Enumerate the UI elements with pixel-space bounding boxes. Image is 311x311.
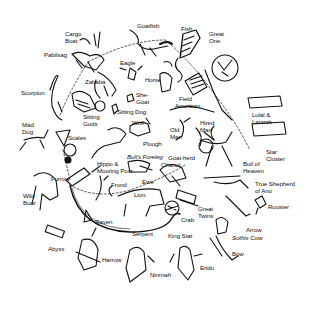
label-bulls-foreleg: Bull's Foreleg [127, 153, 163, 160]
label-anunitum: Anunitum [175, 102, 200, 109]
label-lulal-latarak: Lulal & Latarak [252, 111, 272, 125]
true-shepherd-figure [204, 176, 248, 188]
star-cluster-figure [199, 139, 213, 153]
eridu-figure [170, 246, 202, 280]
label-sitting-gods: Sitting Gods [83, 113, 100, 127]
goatfish-figure [130, 30, 172, 56]
label-hired-man: Hired Man [200, 119, 214, 133]
sitting-gods-figure [72, 91, 105, 112]
label-abyss: Abyss [48, 245, 64, 252]
label-hippo-mooring-post: Hippo & Mooring Post [97, 160, 132, 174]
label-goat-herd: Goat-herd [168, 154, 195, 161]
ewe-figure [140, 166, 152, 170]
label-harrow: Harrow [102, 256, 121, 263]
label-rooster: Rooster [268, 203, 289, 210]
label-ninmah: Ninmah [150, 271, 171, 278]
label-mad-dog: Mad Dog [22, 121, 34, 135]
label-eagle: Eagle [120, 59, 135, 66]
label-king-star: King Star [168, 232, 193, 239]
label-sitting-dog: Sitting Dog [117, 108, 146, 115]
sothis-cow-figure [216, 217, 228, 234]
label-ewe: Ewe [142, 178, 154, 185]
label-wolf: Wolf [132, 119, 144, 126]
label-she-goat: She- Goat [136, 91, 149, 105]
frond-figure [96, 176, 108, 200]
abyss-figure [45, 225, 64, 238]
arrow-figure [226, 196, 250, 216]
label-scorpion: Scorpion [21, 89, 45, 96]
label-field: Field [179, 95, 192, 102]
label-cargo-boat: Cargo Boat [65, 30, 81, 44]
zababa-figure [95, 72, 116, 98]
great-twins-figure [176, 190, 198, 206]
label-zababa: Zababa [85, 78, 105, 85]
label-wild-boar: Wild Boar [23, 192, 36, 206]
star-map-diagram: GoatfishFishGreat OneCargo BoatPabilsagE… [0, 0, 311, 311]
label-bull-of-heaven: Bull of Heaven [243, 160, 264, 174]
she-goat-figure [127, 94, 134, 102]
eagle-figure [120, 66, 142, 80]
label-pabilsag: Pabilsag [44, 51, 67, 58]
label-sothis-cow: Sothis Cow [232, 234, 262, 241]
label-true-shepherd: True Shepherd of Anu [255, 180, 295, 194]
label-star-cluster: Star Cluster [266, 148, 285, 162]
furrow-figure [66, 166, 100, 186]
label-crab: Crab [181, 216, 194, 223]
label-bow: Bow [232, 250, 244, 257]
label-fish: Fish [181, 25, 192, 32]
label-goatfish: Goatfish [137, 22, 159, 29]
label-raven: Raven [95, 218, 112, 225]
label-eridu: Eridu [200, 264, 214, 271]
rooster-figure [255, 196, 266, 214]
label-great-twins: Great Twins [198, 205, 213, 219]
harrow-figure [76, 228, 100, 270]
label-great-one: Great One [209, 30, 224, 44]
scorpion-figure [50, 75, 62, 120]
horse-figure [160, 62, 172, 93]
label-lion: Lion [134, 191, 145, 198]
label-old-man: Old Man [170, 126, 182, 140]
plough-figure [92, 128, 126, 158]
label-arrow: Arrow [246, 226, 262, 233]
label-serpent: Serpent [132, 230, 153, 237]
label-furrow: Furrow [51, 175, 70, 182]
label-horse: Horse [145, 76, 161, 83]
label-frond: Frond [111, 181, 127, 188]
label-plough: Plough [143, 140, 162, 147]
label-chariot: Chariot [161, 161, 180, 168]
label-scales: Scales [68, 134, 86, 141]
